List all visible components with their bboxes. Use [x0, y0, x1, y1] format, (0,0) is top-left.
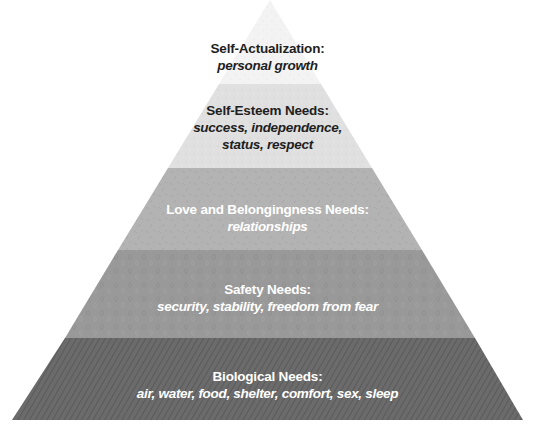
safety-description: security, stability, freedom from fear	[0, 298, 535, 315]
self-actualization-title: Self-Actualization:	[0, 40, 535, 57]
self-esteem-title: Self-Esteem Needs:	[0, 102, 535, 119]
love-belonging-description: relationships	[0, 218, 535, 235]
love-belonging-label: Love and Belongingness Needs: relationsh…	[0, 201, 535, 235]
safety-title: Safety Needs:	[0, 281, 535, 298]
biological-title: Biological Needs:	[0, 368, 535, 385]
self-esteem-description-line-2: status, respect	[0, 136, 535, 153]
self-esteem-description-line-1: success, independence,	[0, 119, 535, 136]
love-belonging-title: Love and Belongingness Needs:	[0, 201, 535, 218]
self-esteem-label: Self-Esteem Needs: success, independence…	[0, 102, 535, 153]
safety-label: Safety Needs: security, stability, freed…	[0, 281, 535, 315]
biological-description: air, water, food, shelter, comfort, sex,…	[0, 385, 535, 402]
self-actualization-description: personal growth	[0, 57, 535, 74]
self-actualization-label: Self-Actualization: personal growth	[0, 40, 535, 74]
biological-label: Biological Needs: air, water, food, shel…	[0, 368, 535, 402]
